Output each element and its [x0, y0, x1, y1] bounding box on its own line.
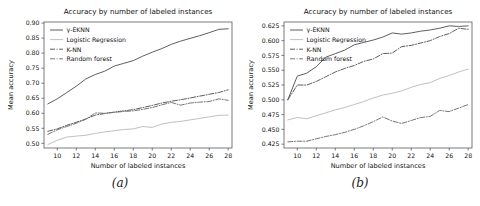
chart-title: Accuracy by number of labeled instances — [304, 7, 453, 16]
x-axis-tick-label: 26 — [205, 152, 213, 159]
x-axis-tick-label: 22 — [407, 152, 415, 159]
x-axis-label: Number of labeled instances — [91, 162, 186, 170]
x-axis-tick-label: 16 — [110, 152, 118, 159]
x-axis-tick-label: 18 — [129, 152, 137, 159]
chart-b-canvas: Accuracy by number of labeled instances0… — [240, 0, 480, 176]
x-axis-tick-label: 18 — [369, 152, 377, 159]
x-axis-tick-label: 14 — [91, 152, 99, 159]
x-axis-tick-label: 10 — [293, 152, 301, 159]
y-axis-tick-label: 0.65 — [26, 94, 40, 101]
y-axis-tick-label: 0.425 — [262, 140, 280, 147]
x-axis-tick-label: 28 — [224, 152, 232, 159]
y-axis-tick-label: 0.75 — [26, 64, 40, 71]
legend-label: K-NN — [307, 46, 322, 53]
legend-label: Random forest — [67, 55, 113, 62]
x-axis-tick-label: 24 — [426, 152, 434, 159]
x-axis-tick-label: 24 — [186, 152, 194, 159]
y-axis-tick-label: 0.500 — [262, 96, 280, 103]
panel-b-caption: (b) — [240, 176, 480, 190]
x-axis-tick-label: 12 — [72, 152, 80, 159]
series-line — [48, 99, 228, 134]
x-axis-tick-label: 12 — [312, 152, 320, 159]
panel-a-caption: (a) — [0, 176, 240, 190]
x-axis-tick-label: 20 — [148, 152, 156, 159]
y-axis-tick-label: 0.85 — [26, 34, 40, 41]
x-axis-tick-label: 26 — [445, 152, 453, 159]
y-axis-tick-label: 0.70 — [26, 79, 40, 86]
x-axis-tick-label: 22 — [167, 152, 175, 159]
x-axis-tick-label: 14 — [331, 152, 339, 159]
y-axis-tick-label: 0.550 — [262, 66, 280, 73]
y-axis-tick-label: 0.575 — [262, 52, 280, 59]
y-axis-tick-label: 0.60 — [26, 109, 40, 116]
legend-label: Logistic Regression — [67, 36, 126, 44]
figure-two-panel-accuracy-plots: Accuracy by number of labeled instances0… — [0, 0, 480, 206]
series-line — [288, 69, 468, 120]
y-axis-tick-label: 0.55 — [26, 125, 40, 132]
legend-label: Logistic Regression — [307, 36, 366, 44]
y-axis-tick-label: 0.90 — [26, 19, 40, 26]
chart-title: Accuracy by number of labeled instances — [64, 7, 213, 16]
legend-label: γ-EKNN — [307, 26, 330, 34]
y-axis-label: Mean accuracy — [7, 60, 15, 110]
series-line — [288, 105, 468, 142]
legend-label: Random forest — [307, 55, 353, 62]
y-axis-tick-label: 0.475 — [262, 111, 280, 118]
x-axis-tick-label: 20 — [388, 152, 396, 159]
y-axis-tick-label: 0.600 — [262, 37, 280, 44]
y-axis-label: Mean accuracy — [247, 60, 255, 110]
legend-label: γ-EKNN — [67, 26, 90, 34]
y-axis-tick-label: 0.450 — [262, 126, 280, 133]
y-axis-tick-label: 0.525 — [262, 81, 280, 88]
x-axis-label: Number of labeled instances — [331, 162, 426, 170]
series-line — [48, 115, 228, 144]
x-axis-tick-label: 10 — [53, 152, 61, 159]
chart-a-canvas: Accuracy by number of labeled instances0… — [0, 0, 240, 176]
legend-label: K-NN — [67, 46, 82, 53]
x-axis-tick-label: 16 — [350, 152, 358, 159]
y-axis-tick-label: 0.50 — [26, 140, 40, 147]
y-axis-tick-label: 0.625 — [262, 22, 280, 29]
y-axis-tick-label: 0.80 — [26, 49, 40, 56]
x-axis-tick-label: 28 — [464, 152, 472, 159]
